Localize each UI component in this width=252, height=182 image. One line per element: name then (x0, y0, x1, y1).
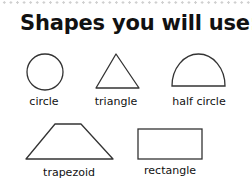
rectangle-label: rectangle (144, 164, 196, 177)
circle-label: circle (29, 95, 58, 108)
rectangle-shape (138, 129, 202, 159)
triangle-label: triangle (95, 95, 137, 108)
circle-shape (27, 54, 63, 90)
triangle-shape (96, 54, 139, 88)
trapezoid-shape (26, 124, 113, 159)
shapes-canvas (0, 0, 252, 182)
trapezoid-label: trapezoid (43, 166, 95, 179)
half-circle-label: half circle (172, 95, 225, 108)
half-circle-shape (172, 54, 225, 86)
